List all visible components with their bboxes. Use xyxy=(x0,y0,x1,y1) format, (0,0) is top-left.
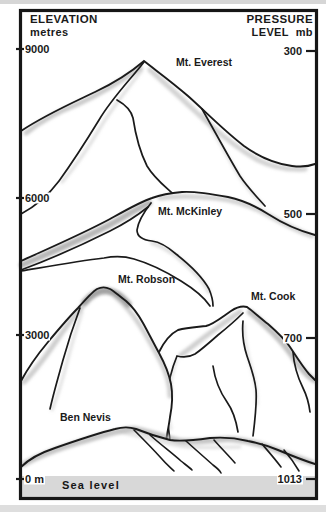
mountain-label-mt-everest: Mt. Everest xyxy=(176,57,232,68)
pressure-tick-700: 700 xyxy=(283,333,303,344)
elevation-tick-0m: 0 m xyxy=(24,474,45,485)
sea-level-label: Sea level xyxy=(62,480,120,491)
mountain-label-ben-nevis: Ben Nevis xyxy=(60,412,111,423)
pressure-tick-1013: 1013 xyxy=(277,474,303,485)
elevation-tick-3000: 3000 xyxy=(24,330,50,341)
pressure-tick-300: 300 xyxy=(283,46,303,57)
mountain-label-mt-cook: Mt. Cook xyxy=(251,291,295,302)
mountain-label-mt-mckinley: Mt. McKinley xyxy=(158,206,222,217)
pressure-axis-title: PRESSURELEVEL mb xyxy=(247,13,313,39)
elevation-tick-9000: 9000 xyxy=(24,44,50,55)
elevation-pressure-diagram: ELEVATIONmetres PRESSURELEVEL mb 9000600… xyxy=(0,0,326,512)
label-overlay: ELEVATIONmetres PRESSURELEVEL mb 9000600… xyxy=(0,0,326,512)
mountain-label-mt-robson: Mt. Robson xyxy=(118,274,175,285)
elevation-tick-6000: 6000 xyxy=(24,193,50,204)
elevation-axis-title: ELEVATIONmetres xyxy=(30,13,98,39)
pressure-tick-500: 500 xyxy=(283,209,303,220)
